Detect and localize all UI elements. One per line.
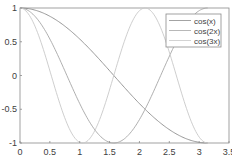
legend-label-cos-x: cos(x) — [194, 17, 216, 26]
x-tick-label: 3.5 — [223, 147, 232, 157]
x-tick-label: 0 — [17, 147, 22, 157]
y-tick-label: 0.5 — [4, 37, 17, 47]
x-tick-label: 2.5 — [163, 147, 176, 157]
y-tick-label: 1 — [12, 3, 17, 13]
y-tick-label: -0.5 — [1, 104, 17, 114]
line-chart: 00.511.522.533.5 10.50-0.5-1 cos(x) cos(… — [0, 0, 232, 168]
legend-label-cos-3x: cos(3x) — [194, 37, 221, 46]
legend-label-cos-2x: cos(2x) — [194, 27, 221, 36]
x-tick-label: 1 — [77, 147, 82, 157]
y-axis: 10.50-0.5-1 — [1, 3, 22, 148]
x-tick-label: 2 — [137, 147, 142, 157]
y-tick-label: -1 — [9, 138, 17, 148]
x-tick-label: 0.5 — [44, 147, 57, 157]
x-tick-label: 1.5 — [103, 147, 116, 157]
legend: cos(x) cos(2x) cos(3x) — [166, 14, 221, 47]
x-tick-label: 3 — [197, 147, 202, 157]
y-tick-label: 0 — [12, 71, 17, 81]
